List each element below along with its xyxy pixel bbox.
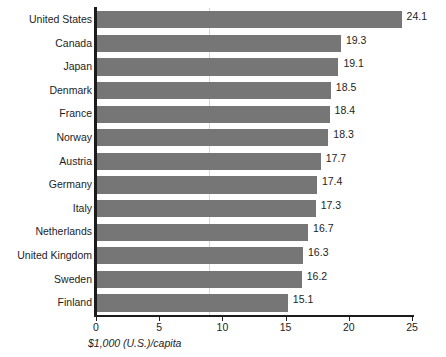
bar-value-label: 16.7 xyxy=(308,220,333,237)
bar[interactable] xyxy=(97,11,402,28)
bar[interactable] xyxy=(97,153,321,170)
bar[interactable] xyxy=(97,224,308,241)
x-axis-tick-label: 15 xyxy=(280,321,292,333)
bar-value-label: 17.4 xyxy=(317,173,342,190)
bar-track xyxy=(97,200,316,217)
bar-row: United Kingdom16.3 xyxy=(0,244,446,268)
bar-track xyxy=(97,247,303,264)
bar-value-label: 18.5 xyxy=(331,79,356,96)
bar-track xyxy=(97,106,330,123)
bar-row: France18.4 xyxy=(0,102,446,126)
bar-row: United States24.1 xyxy=(0,8,446,32)
bar-row: Italy17.3 xyxy=(0,197,446,221)
bar-value-label: 16.3 xyxy=(303,244,328,261)
category-label: Italy xyxy=(0,197,92,221)
bar-track xyxy=(97,176,317,193)
bar[interactable] xyxy=(97,82,331,99)
category-label: Japan xyxy=(0,55,92,79)
bar-row: Norway18.3 xyxy=(0,126,446,150)
category-label: Germany xyxy=(0,173,92,197)
bar-value-label: 17.3 xyxy=(316,197,341,214)
bar-track xyxy=(97,271,302,288)
bar-row: Denmark18.5 xyxy=(0,79,446,103)
category-label: Netherlands xyxy=(0,220,92,244)
bar-value-label: 15.1 xyxy=(288,291,313,308)
x-axis-tick-label: 0 xyxy=(93,321,99,333)
bar-value-label: 18.4 xyxy=(330,102,355,119)
category-label: Finland xyxy=(0,291,92,315)
category-label: France xyxy=(0,102,92,126)
bar[interactable] xyxy=(97,247,303,264)
category-label: Austria xyxy=(0,150,92,174)
bar-track xyxy=(97,35,341,52)
bar-value-label: 19.3 xyxy=(341,32,366,49)
bar-value-label: 18.3 xyxy=(328,126,353,143)
bar-track xyxy=(97,11,402,28)
category-label: Sweden xyxy=(0,268,92,292)
bar-value-label: 24.1 xyxy=(402,8,427,25)
category-label: Norway xyxy=(0,126,92,150)
bar-row: Germany17.4 xyxy=(0,173,446,197)
category-label: Canada xyxy=(0,32,92,56)
bar[interactable] xyxy=(97,129,328,146)
bar-value-label: 16.2 xyxy=(302,268,327,285)
x-axis-tick-label: 20 xyxy=(343,321,355,333)
bar[interactable] xyxy=(97,35,341,52)
bar-row: Sweden16.2 xyxy=(0,268,446,292)
bar[interactable] xyxy=(97,294,288,311)
x-axis-tick-label: 25 xyxy=(406,321,418,333)
category-label: United States xyxy=(0,8,92,32)
bar[interactable] xyxy=(97,58,338,75)
category-label: United Kingdom xyxy=(0,244,92,268)
bar-track xyxy=(97,153,321,170)
bar-track xyxy=(97,82,331,99)
bar-row: Netherlands16.7 xyxy=(0,220,446,244)
bar-track xyxy=(97,294,288,311)
bar-row: Finland15.1 xyxy=(0,291,446,315)
bar[interactable] xyxy=(97,106,330,123)
bar-chart-figure: United States24.1Canada19.3Japan19.1Denm… xyxy=(0,0,446,357)
bar-row: Austria17.7 xyxy=(0,150,446,174)
bar-row: Japan19.1 xyxy=(0,55,446,79)
bar[interactable] xyxy=(97,271,302,288)
category-label: Denmark xyxy=(0,79,92,103)
x-axis-title: $1,000 (U.S.)/capita xyxy=(88,337,181,349)
bar-track xyxy=(97,129,328,146)
x-axis-tick-label: 10 xyxy=(217,321,229,333)
bar-row: Canada19.3 xyxy=(0,32,446,56)
bar-value-label: 17.7 xyxy=(321,150,346,167)
x-axis-tick-label: 5 xyxy=(156,321,162,333)
bar[interactable] xyxy=(97,176,317,193)
x-axis-line xyxy=(94,315,414,317)
bar-value-label: 19.1 xyxy=(338,55,363,72)
bar-track xyxy=(97,58,338,75)
bar-track xyxy=(97,224,308,241)
bar[interactable] xyxy=(97,200,316,217)
